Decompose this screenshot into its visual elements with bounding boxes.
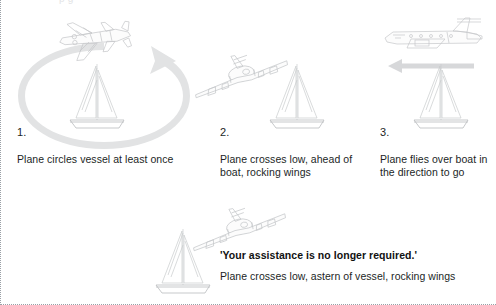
panel-3: 3. Plane flies over boat in the directio… bbox=[380, 14, 496, 174]
panel-2-number: 2. bbox=[220, 126, 229, 138]
airplane-top-view-icon bbox=[55, 18, 145, 66]
footer-panel: 'Your assistance is no longer required.'… bbox=[141, 205, 481, 300]
panel-2-caption: Plane crosses low, ahead of boat, rockin… bbox=[220, 153, 360, 179]
sailboat-icon bbox=[260, 60, 334, 135]
panel-1-number: 1. bbox=[17, 126, 26, 138]
panel-2: 2. Plane crosses low, ahead of boat, roc… bbox=[220, 14, 370, 174]
diagram-page: p g bbox=[0, 0, 496, 305]
panel-3-number: 3. bbox=[380, 126, 389, 138]
footer-quote: 'Your assistance is no longer required.' bbox=[220, 249, 417, 261]
sailboat-icon bbox=[404, 60, 478, 135]
cutoff-title-text: p g bbox=[59, 0, 74, 4]
panel-3-caption: Plane flies over boat in the direction t… bbox=[380, 153, 496, 179]
footer-caption: Plane crosses low, astern of vessel, roc… bbox=[220, 270, 480, 283]
airplane-side-view-icon bbox=[381, 16, 491, 56]
sailboat-icon bbox=[146, 225, 220, 300]
panel-1-caption: Plane circles vessel at least once bbox=[17, 153, 202, 166]
sailboat-icon bbox=[60, 60, 134, 135]
panel-1: 1. Plane circles vessel at least once bbox=[17, 14, 202, 174]
